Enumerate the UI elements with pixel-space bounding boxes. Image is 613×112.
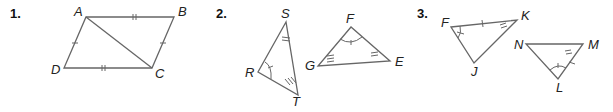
vertex-a: A <box>73 4 83 19</box>
vertex-l: L <box>556 80 563 95</box>
vertex-b: B <box>178 4 187 19</box>
vertex-d: D <box>51 62 60 77</box>
problem-number-1: 1. <box>10 6 21 21</box>
vertex-f3: F <box>441 15 450 30</box>
vertex-c: C <box>155 66 165 81</box>
vertex-n: N <box>514 37 524 52</box>
tick-angle-e-2 <box>371 55 378 56</box>
vertex-k: K <box>521 8 531 23</box>
tick-angle-g-2 <box>327 58 334 59</box>
tick-angle-e-1 <box>371 52 378 53</box>
tick-angle-m-1 <box>565 50 571 51</box>
problem-2: 2. S R T F G E <box>216 6 404 109</box>
vertex-j: J <box>470 64 478 79</box>
vertex-f2: F <box>346 11 355 26</box>
diagonal-ac <box>86 17 152 68</box>
vertex-e: E <box>395 54 404 69</box>
vertex-t: T <box>292 94 301 109</box>
tick-angle-g-3 <box>327 61 334 62</box>
problem-1: 1. A B D C <box>10 4 187 81</box>
problem-number-3: 3. <box>417 6 428 21</box>
tick-angle-k-2 <box>501 26 507 28</box>
tick-angle-g-1 <box>327 55 334 56</box>
problem-3: 3. F K J N M L <box>417 6 599 95</box>
tick-angle-m-2 <box>566 53 572 54</box>
vertex-g: G <box>305 58 315 73</box>
tick-side-fk <box>482 20 483 27</box>
triangle-srt <box>258 22 298 95</box>
geometry-figures: 1. A B D C 2. S R T <box>0 0 613 112</box>
vertex-r: R <box>245 65 254 80</box>
vertex-m: M <box>588 37 599 52</box>
triangle-nml <box>526 44 583 79</box>
triangle-fge <box>318 27 390 66</box>
problem-number-2: 2. <box>216 6 227 21</box>
vertex-s: S <box>281 6 290 21</box>
tick-angle-k-1 <box>500 23 506 25</box>
